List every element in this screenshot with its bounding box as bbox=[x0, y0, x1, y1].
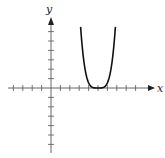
x-axis-label: x bbox=[157, 82, 164, 95]
y-axis-arrow-icon bbox=[48, 17, 54, 25]
x-axis-arrow-icon bbox=[148, 85, 155, 91]
function-curve bbox=[81, 27, 116, 88]
y-axis-label: y bbox=[45, 3, 53, 16]
chart: x y bbox=[0, 0, 165, 158]
